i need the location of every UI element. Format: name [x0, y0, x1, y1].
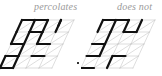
open-bond	[58, 20, 61, 26]
lattice-percolating	[0, 0, 81, 76]
lattice-non-percolating	[81, 0, 162, 76]
separator-dot	[77, 62, 79, 64]
